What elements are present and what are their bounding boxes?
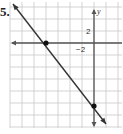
y-tick-label: 2 bbox=[86, 27, 91, 36]
y-axis-title: y bbox=[96, 7, 101, 16]
y-intercept-point bbox=[91, 103, 96, 108]
y-axis-arrow-up-icon bbox=[92, 9, 97, 14]
x-axis-arrow-icon bbox=[11, 41, 16, 46]
x-intercept-point bbox=[43, 40, 48, 45]
x-tick-label: −2 bbox=[76, 45, 86, 54]
y-axis-arrow-down-icon bbox=[92, 122, 97, 127]
coordinate-plane: y −22 bbox=[0, 0, 123, 134]
